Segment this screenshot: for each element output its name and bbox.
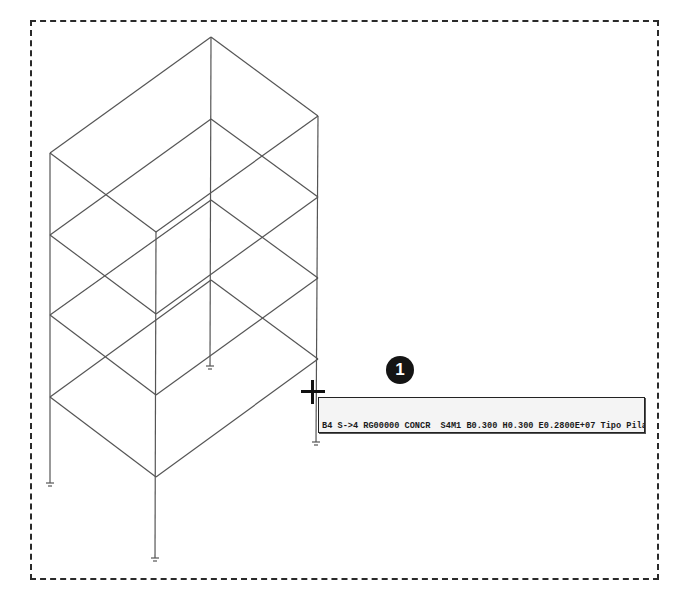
beam[interactable] <box>211 119 318 197</box>
beam[interactable] <box>50 153 156 232</box>
beam[interactable] <box>50 315 156 395</box>
callout-number: 1 <box>395 360 404 380</box>
beam[interactable] <box>50 397 156 477</box>
tooltip-line-1: B4 S->4 RG00000 CONCR S4M1 B0.300 H0.300… <box>322 421 641 432</box>
beam[interactable] <box>211 200 318 278</box>
beam[interactable] <box>156 359 318 477</box>
structure-wireframe[interactable] <box>0 0 679 599</box>
column[interactable] <box>210 37 211 366</box>
callout-badge: 1 <box>386 356 414 384</box>
beam[interactable] <box>211 280 318 359</box>
column[interactable] <box>155 232 156 558</box>
element-info-tooltip: B4 S->4 RG00000 CONCR S4M1 B0.300 H0.300… <box>318 397 645 433</box>
beam[interactable] <box>50 37 211 153</box>
beam[interactable] <box>156 278 318 395</box>
beam[interactable] <box>211 37 318 116</box>
beam[interactable] <box>50 235 156 314</box>
